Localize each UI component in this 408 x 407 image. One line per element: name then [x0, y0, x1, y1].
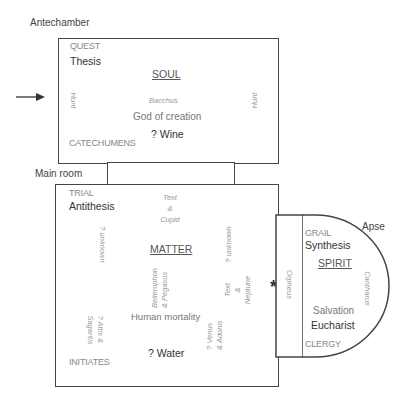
water-label: ? Water — [148, 347, 184, 359]
entry-arrow-icon — [16, 88, 46, 98]
trial-label: TRIAL — [69, 188, 94, 198]
quest-label: QUEST — [70, 41, 100, 51]
clergy-label: CLERGY — [305, 339, 341, 349]
venus-line-1: ? Venus — [205, 320, 215, 350]
text-cupid-line-2: Cupid — [150, 214, 190, 225]
orpheus-label: Orpheus — [285, 270, 294, 299]
text-cupid-line-1: Text — [150, 192, 190, 203]
soul-title: SOUL — [152, 68, 181, 80]
bellerophon-label: Bellerophon & Pegasus — [150, 268, 170, 308]
text-neptune-label: Text & Neptune — [223, 276, 253, 304]
attis-line-1: ? Attis & — [95, 315, 105, 344]
human-mortality-label: Human mortality — [131, 311, 200, 322]
attis-label: ? Attis & Sagaritis — [85, 315, 105, 344]
venus-line-2: & Adonis — [215, 320, 225, 350]
unknown-right-label: ? unknown — [224, 226, 233, 262]
connector-passage — [107, 162, 235, 185]
salvation-label: Salvation — [313, 305, 354, 316]
hunt-right-label: Hunt — [250, 93, 259, 109]
text-cupid-label: Text & Cupid — [150, 192, 190, 225]
catechumens-label: CATECHUMENS — [69, 138, 136, 148]
matter-title: MATTER — [150, 243, 192, 255]
bellerophon-line-2: & Pegasus — [160, 268, 170, 308]
text-neptune-line-1: Text — [223, 276, 233, 304]
venus-label: ? Venus & Adonis — [205, 320, 225, 350]
bellerophon-line-1: Bellerophon — [150, 268, 160, 308]
bacchus-label: Bacchus — [149, 96, 178, 105]
cantharus-label: Cantharus — [363, 271, 372, 306]
text-cupid-amp: & — [150, 203, 190, 214]
eucharist-label: Eucharist — [311, 319, 355, 331]
thesis-label: Thesis — [70, 55, 101, 67]
spirit-title: SPIRIT — [318, 257, 352, 269]
text-neptune-line-2: Neptune — [243, 276, 253, 304]
antechamber-label: Antechamber — [30, 17, 89, 28]
grail-label: GRAIL — [305, 228, 331, 238]
main-room-label: Main room — [35, 168, 82, 179]
antithesis-label: Antithesis — [69, 200, 115, 212]
text-neptune-amp: & — [233, 276, 243, 304]
synthesis-label: Synthesis — [305, 239, 351, 251]
wine-label: ? Wine — [151, 128, 184, 140]
initiates-label: INITIATES — [69, 357, 110, 367]
god-of-creation-label: God of creation — [133, 111, 201, 122]
attis-line-2: Sagaritis — [85, 315, 95, 344]
unknown-left-label: ? unknown — [98, 226, 107, 262]
hunt-left-label: Hunt — [69, 93, 78, 109]
